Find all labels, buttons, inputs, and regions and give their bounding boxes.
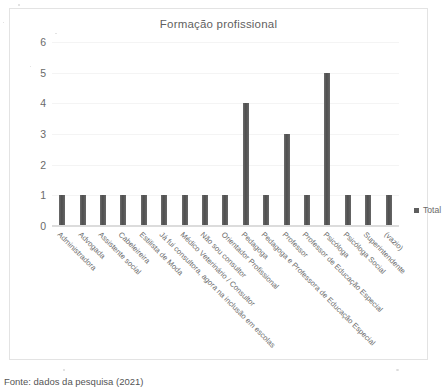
- bar-slot: [358, 42, 378, 226]
- y-axis-tick-label: 4: [40, 97, 46, 109]
- scan-speck: [3, 22, 4, 23]
- y-axis-tick-label: 2: [40, 159, 46, 171]
- bar[interactable]: [100, 195, 106, 226]
- bar-slot: [297, 42, 317, 226]
- bar-slot: [52, 42, 72, 226]
- scan-speck: [63, 369, 65, 371]
- bar-slot: [256, 42, 276, 226]
- chart-frame: Formação profissional 0123456 Administra…: [9, 8, 428, 360]
- y-axis-tick-label: 6: [40, 36, 46, 48]
- bar-slot: [317, 42, 337, 226]
- scan-speck: [18, 4, 20, 6]
- x-axis-line: [52, 225, 399, 226]
- y-axis-tick-label: 5: [40, 67, 46, 79]
- bar[interactable]: [141, 195, 147, 226]
- bar[interactable]: [263, 195, 269, 226]
- bar-slot: [195, 42, 215, 226]
- bar-slot: [215, 42, 235, 226]
- source-caption: Fonte: dados da pesquisa (2021): [4, 376, 143, 387]
- bar-slot: [72, 42, 92, 226]
- bar[interactable]: [120, 195, 126, 226]
- y-axis-tick-label: 1: [40, 189, 46, 201]
- bar[interactable]: [386, 195, 392, 226]
- bar[interactable]: [284, 134, 290, 226]
- figure: Formação profissional 0123456 Administra…: [0, 0, 447, 390]
- bar[interactable]: [243, 103, 249, 226]
- bar[interactable]: [365, 195, 371, 226]
- bar-slot: [174, 42, 194, 226]
- bar[interactable]: [161, 195, 167, 226]
- plot-region: 0123456: [52, 42, 399, 226]
- bar-group: [52, 42, 399, 226]
- y-axis-tick-label: 3: [40, 128, 46, 140]
- legend-label-total: Total: [423, 205, 441, 215]
- bar-slot: [379, 42, 399, 226]
- bar-slot: [113, 42, 133, 226]
- bar-slot: [154, 42, 174, 226]
- gridline: [52, 226, 399, 227]
- bar-slot: [236, 42, 256, 226]
- bar[interactable]: [59, 195, 65, 226]
- x-axis-labels: AdministradoraAdvogadaAssistente socialC…: [52, 228, 399, 358]
- legend: Total: [414, 205, 441, 215]
- bar[interactable]: [324, 73, 330, 226]
- chart-title: Formação profissional: [10, 18, 427, 30]
- bar[interactable]: [222, 195, 228, 226]
- bar[interactable]: [80, 195, 86, 226]
- legend-swatch-total: [414, 208, 419, 213]
- scan-speck: [55, 33, 57, 34]
- bar[interactable]: [345, 195, 351, 226]
- bar-slot: [93, 42, 113, 226]
- y-axis-tick-label: 0: [40, 220, 46, 232]
- bar-slot: [338, 42, 358, 226]
- bar[interactable]: [182, 195, 188, 226]
- scan-speck: [30, 66, 31, 67]
- bar-slot: [134, 42, 154, 226]
- bar[interactable]: [202, 195, 208, 226]
- bar-slot: [276, 42, 296, 226]
- bar[interactable]: [304, 195, 310, 226]
- scan-speck: [396, 369, 399, 371]
